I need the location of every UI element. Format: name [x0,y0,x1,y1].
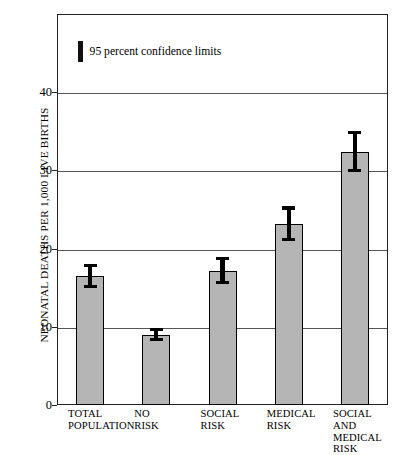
error-bar-cap [150,338,163,341]
x-axis-labels: TOTAL POPULATIONNO RISKSOCIAL RISKMEDICA… [57,408,388,452]
x-axis-category-label: TOTAL POPULATION [68,408,134,432]
y-tick-label: 20 [12,243,52,255]
bar [142,335,170,405]
bar [275,224,303,405]
x-axis-category-label: NO RISK [134,408,159,432]
error-bar-cap [84,264,97,267]
error-bar [287,206,291,240]
y-axis-ticks: 010203040 [6,14,52,405]
legend-marker-confidence-bar-icon [78,41,83,62]
error-bar-cap [348,169,361,172]
y-tick-label: 10 [12,321,52,333]
x-axis-category-label: MEDICAL RISK [267,408,316,432]
error-bar-cap [216,257,229,260]
error-bar-cap [282,238,295,241]
y-tick-label: 0 [12,399,52,411]
y-tick-label: 30 [12,164,52,176]
error-bar [353,131,357,172]
x-axis-category-label: SOCIAL AND MEDICAL RISK [333,408,388,455]
x-axis-category-label: SOCIAL RISK [201,408,240,432]
y-tick-label: 40 [12,86,52,98]
legend: 95 percent confidence limits [78,39,221,63]
bars-layer [57,14,388,405]
error-bar-cap [150,328,163,331]
y-tick-mark [52,405,57,406]
error-bar-cap [216,281,229,284]
bar [209,271,237,405]
legend-label: 95 percent confidence limits [90,45,222,58]
error-bar-cap [282,206,295,209]
bar [341,152,369,405]
error-bar-cap [348,131,361,134]
error-bar-cap [84,285,97,288]
bar [76,276,104,405]
